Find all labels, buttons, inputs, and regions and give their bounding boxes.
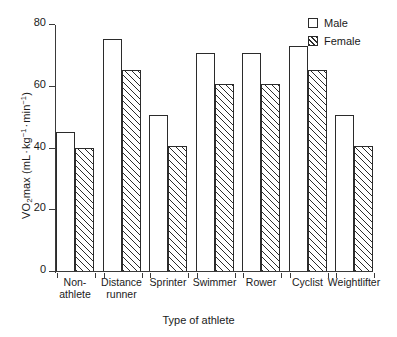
y-axis-title-sep-1: · — [20, 149, 32, 155]
legend-label: Female — [324, 35, 361, 47]
bar-male[interactable] — [289, 46, 308, 271]
y-axis-title: VO2max (mL·kg−1·min−1) — [19, 26, 34, 286]
y-axis-title-sub: 2 — [25, 198, 34, 203]
y-axis-tick-label: 80 — [34, 16, 46, 28]
y-axis-title-unit1: kg — [20, 137, 32, 149]
bar-group — [149, 24, 187, 271]
bar-group — [56, 24, 94, 271]
legend: MaleFemale — [308, 17, 361, 53]
x-axis-line — [55, 271, 373, 272]
x-axis-category-label: Weightlifter — [322, 277, 386, 289]
bar-groups — [56, 24, 373, 271]
y-axis-title-sep-2: · — [20, 123, 32, 129]
y-axis-tick: 80 — [49, 24, 55, 25]
bar-group — [335, 24, 373, 271]
x-axis-title: Type of athlete — [0, 314, 397, 326]
y-axis-title-mid: max (mL — [20, 155, 32, 198]
bar-female[interactable] — [354, 146, 373, 271]
y-axis-tick: 20 — [49, 209, 55, 210]
legend-swatch-female-icon — [308, 36, 318, 46]
legend-swatch-male-icon — [308, 18, 318, 28]
bar-group — [103, 24, 141, 271]
bar-male[interactable] — [196, 53, 215, 271]
y-axis-tick: 60 — [49, 86, 55, 87]
y-axis-title-unit2-exp: −1 — [19, 96, 28, 105]
chart-figure: VO2max (mL·kg−1·min−1) 020406080 Non- at… — [0, 0, 397, 337]
bar-female[interactable] — [75, 148, 94, 272]
y-axis-tick-label: 40 — [34, 140, 46, 152]
legend-item-female[interactable]: Female — [308, 35, 361, 47]
y-axis-tick-label: 20 — [34, 201, 46, 213]
bar-male[interactable] — [149, 115, 168, 271]
y-axis-title-prefix: VO — [20, 203, 32, 219]
y-axis-tick: 0 — [49, 271, 55, 272]
bar-female[interactable] — [261, 84, 280, 271]
y-axis-tick-label: 60 — [34, 78, 46, 90]
bar-group — [196, 24, 234, 271]
y-axis-title-suffix: ) — [20, 92, 32, 96]
plot-area: 020406080 — [55, 25, 373, 272]
bar-female[interactable] — [122, 70, 141, 271]
bar-male[interactable] — [242, 53, 261, 271]
y-axis-tick: 40 — [49, 148, 55, 149]
bar-female[interactable] — [215, 84, 234, 271]
bar-female[interactable] — [308, 70, 327, 271]
bar-group — [242, 24, 280, 271]
y-axis-tick-label: 0 — [40, 263, 46, 275]
y-axis-title-unit1-exp: −1 — [19, 128, 28, 137]
legend-item-male[interactable]: Male — [308, 17, 361, 29]
legend-label: Male — [324, 17, 348, 29]
bar-male[interactable] — [335, 115, 354, 271]
bar-male[interactable] — [56, 132, 75, 271]
bar-male[interactable] — [103, 39, 122, 271]
y-axis-title-unit2: min — [20, 105, 32, 123]
bar-group — [289, 24, 327, 271]
bar-female[interactable] — [168, 146, 187, 271]
